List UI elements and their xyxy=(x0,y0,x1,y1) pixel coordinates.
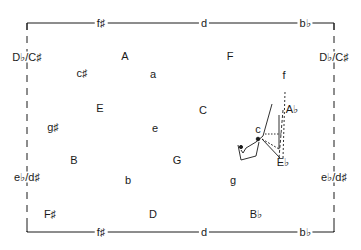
key-F: F xyxy=(225,51,236,62)
key-g-sharp: g♯ xyxy=(45,122,61,133)
key-E: E xyxy=(94,103,105,114)
frame-bottom-label-f-sharp: f♯ xyxy=(95,227,108,238)
key-G: G xyxy=(171,155,184,166)
frame-right-label-d-flat-c-sharp: D♭/C♯ xyxy=(317,52,350,63)
frame-left-label-d-flat-c-sharp: D♭/C♯ xyxy=(10,52,43,63)
key-C: C xyxy=(197,105,209,116)
frame-bottom-label-b-flat: b♭ xyxy=(297,227,312,238)
frame-top-label-d: d xyxy=(199,18,209,29)
key-g: g xyxy=(228,175,238,186)
key-e: e xyxy=(150,123,160,134)
key-c: c xyxy=(253,124,263,135)
frame-left-label-e-flat-d-sharp: e♭/d♯ xyxy=(12,172,42,183)
key-D: D xyxy=(147,209,159,220)
frame-top-label-f-sharp: f♯ xyxy=(95,18,108,29)
key-f: f xyxy=(280,70,287,81)
key-a: a xyxy=(148,69,158,80)
key-b: b xyxy=(123,175,133,186)
frame-bottom-label-d: d xyxy=(199,227,209,238)
key-B-flat: B♭ xyxy=(248,209,264,220)
key-F-sharp: F♯ xyxy=(42,209,58,220)
key-A-flat: A♭ xyxy=(284,104,300,115)
key-E-flat: E♭ xyxy=(275,157,291,168)
key-c-sharp: c♯ xyxy=(75,68,90,79)
frame-right-label-e-flat-d-sharp: e♭/d♯ xyxy=(319,172,349,183)
frame-top-label-b-flat: b♭ xyxy=(297,18,312,29)
key-A: A xyxy=(119,51,130,62)
key-B: B xyxy=(68,155,79,166)
